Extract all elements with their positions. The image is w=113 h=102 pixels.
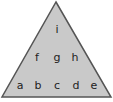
label-d: d [73, 79, 80, 92]
label-b: b [35, 79, 42, 92]
label-i: i [55, 23, 58, 36]
label-a: a [17, 79, 24, 92]
triangle-diagram: i f g h a b c d e [0, 0, 113, 102]
label-g: g [54, 51, 61, 64]
label-c: c [54, 79, 60, 92]
label-h: h [72, 51, 79, 64]
label-e: e [91, 79, 98, 92]
